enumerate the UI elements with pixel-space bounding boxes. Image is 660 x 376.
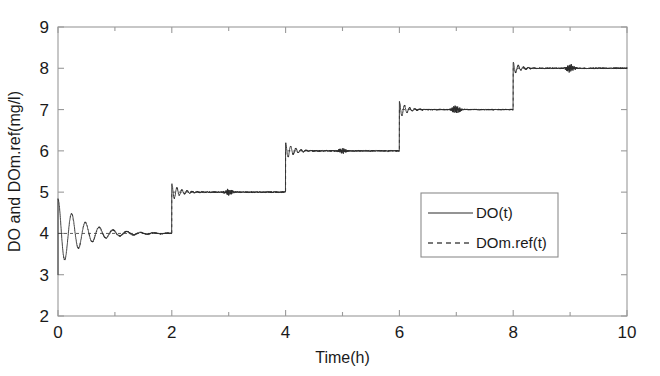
y-axis-label: DO and DOm.ref(mg/l) — [6, 91, 23, 252]
x-tick-label: 8 — [508, 323, 517, 342]
y-tick-label: 9 — [40, 18, 49, 37]
y-tick-label: 4 — [40, 224, 49, 243]
x-tick-label: 2 — [167, 323, 176, 342]
y-tick-label: 5 — [40, 183, 49, 202]
x-tick-label: 4 — [281, 323, 290, 342]
y-tick-label: 7 — [40, 101, 49, 120]
line-chart: 024681023456789 DO(t)DOm.ref(t) Time(h)D… — [0, 0, 660, 376]
legend-label: DOm.ref(t) — [476, 234, 547, 251]
x-tick-label: 0 — [53, 323, 62, 342]
legend-label: DO(t) — [476, 204, 513, 221]
x-axis-label: Time(h) — [315, 349, 370, 366]
x-tick-label: 10 — [618, 323, 637, 342]
chart-figure: 024681023456789 DO(t)DOm.ref(t) Time(h)D… — [0, 0, 660, 376]
y-tick-label: 8 — [40, 59, 49, 78]
chart-background — [0, 0, 660, 376]
chart-legend: DO(t)DOm.ref(t) — [421, 193, 558, 257]
x-tick-label: 6 — [395, 323, 404, 342]
y-tick-label: 3 — [40, 266, 49, 285]
y-tick-label: 2 — [40, 307, 49, 326]
y-tick-label: 6 — [40, 142, 49, 161]
